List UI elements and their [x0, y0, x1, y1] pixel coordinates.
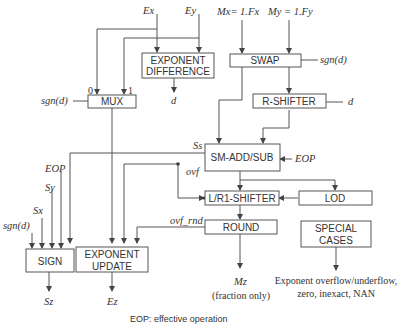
svg-text:L/R1-SHIFTER: L/R1-SHIFTER	[208, 193, 275, 204]
svg-text:SPECIAL: SPECIAL	[315, 223, 358, 234]
label-ovf-rnd: ovf_rnd	[170, 215, 203, 226]
footnote: EOP: effective operation	[130, 314, 227, 324]
notes: (fraction only) Exponent overflow/underf…	[130, 275, 397, 324]
block-special-cases: SPECIAL CASES	[301, 221, 371, 247]
block-lr1-shifter: L/R1-SHIFTER	[205, 191, 279, 205]
label-sgn-d-swap: sgn(d)	[320, 54, 347, 66]
label-ex: Ex	[142, 5, 154, 16]
block-round: ROUND	[205, 220, 277, 234]
label-sx: Sx	[33, 205, 43, 216]
label-mux-0: 0	[88, 85, 93, 96]
block-swap: SWAP	[230, 54, 301, 67]
label-sz: Sz	[44, 296, 53, 307]
label-ss: Ss	[193, 140, 202, 151]
special-output-line2: zero, inexact, NAN	[297, 288, 375, 299]
label-ovf: ovf	[186, 166, 201, 177]
fraction-only-note: (fraction only)	[212, 290, 270, 302]
svg-text:ROUND: ROUND	[223, 222, 260, 233]
svg-text:R-SHIFTER: R-SHIFTER	[262, 96, 315, 107]
special-output-line1: Exponent overflow/underflow,	[275, 275, 398, 286]
block-exponent-update: EXPONENT UPDATE	[76, 247, 148, 272]
svg-text:SM-ADD/SUB: SM-ADD/SUB	[211, 152, 274, 163]
block-mux: MUX	[88, 95, 136, 108]
block-sign: SIGN	[26, 249, 74, 272]
label-d-rshift: d	[348, 96, 354, 107]
fp-adder-diagram: EXPONENT DIFFERENCE SWAP MUX R-SHIFTER S…	[0, 0, 402, 328]
block-sm-add-sub: SM-ADD/SUB	[205, 144, 280, 171]
label-mux-1: 1	[128, 85, 133, 96]
label-d-expdiff: d	[171, 95, 177, 106]
label-sy: Sy	[45, 182, 55, 193]
label-sgn-d-mux: sgn(d)	[41, 95, 68, 107]
label-sgn-d-sign: sgn(d)	[3, 220, 30, 232]
svg-text:EXPONENT: EXPONENT	[150, 55, 205, 66]
block-r-shifter: R-SHIFTER	[253, 94, 326, 108]
svg-text:SIGN: SIGN	[38, 256, 62, 267]
svg-text:EXPONENT: EXPONENT	[84, 249, 139, 260]
label-mz: Mz	[233, 276, 247, 287]
svg-text:CASES: CASES	[319, 235, 353, 246]
block-exponent-difference: EXPONENT DIFFERENCE	[142, 53, 214, 78]
label-ey: Ey	[184, 5, 196, 16]
svg-text:LOD: LOD	[325, 193, 346, 204]
label-mx: Mx= 1.Fx	[216, 6, 259, 17]
label-eop-sign: EOP	[44, 163, 66, 174]
svg-text:DIFFERENCE: DIFFERENCE	[146, 66, 210, 77]
svg-text:UPDATE: UPDATE	[92, 261, 132, 272]
block-lod: LOD	[299, 191, 372, 205]
svg-text:MUX: MUX	[101, 96, 124, 107]
label-ez: Ez	[106, 296, 118, 307]
svg-text:SWAP: SWAP	[250, 55, 279, 66]
label-eop-add: EOP	[294, 153, 316, 164]
label-my: My = 1.Fy	[267, 6, 313, 17]
